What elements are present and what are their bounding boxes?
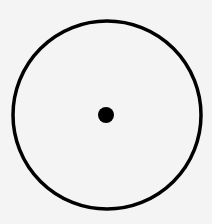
center-dot: [98, 107, 114, 123]
circle-diagram: [0, 0, 212, 224]
